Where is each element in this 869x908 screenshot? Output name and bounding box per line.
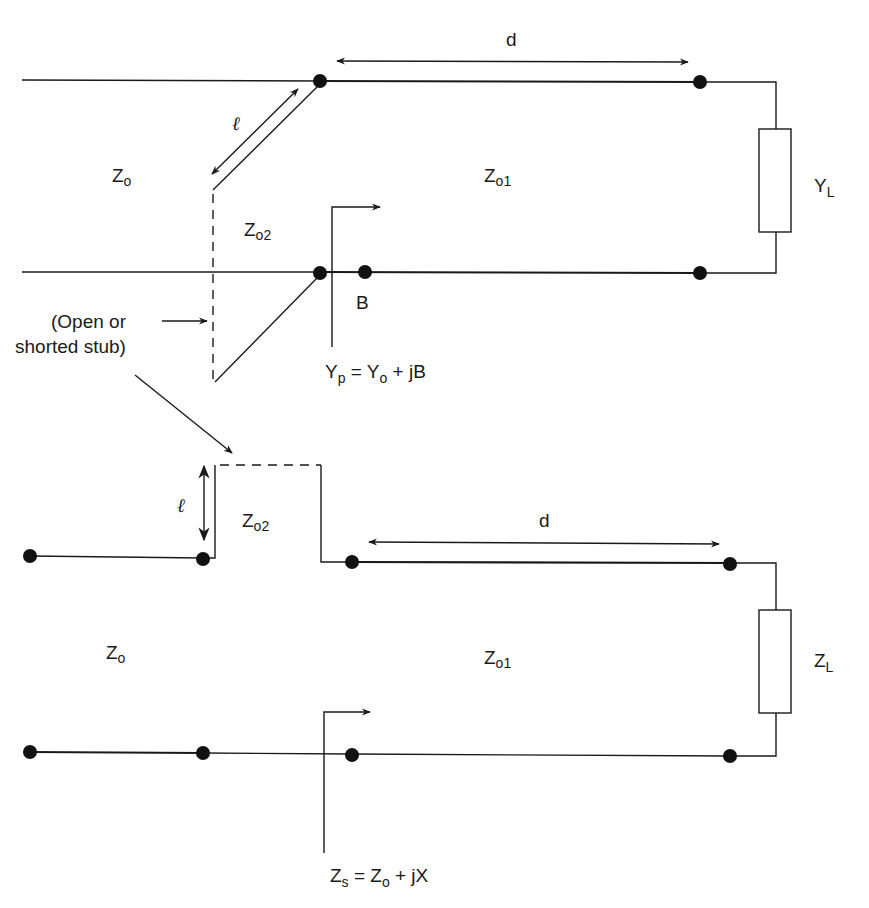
stub-note-line2: shorted stub) bbox=[15, 336, 126, 357]
bottom-label-z0: Zo bbox=[106, 642, 126, 666]
stub-upper-conductor bbox=[213, 86, 318, 190]
node-dot bbox=[345, 748, 359, 762]
load-impedance-zl bbox=[759, 610, 791, 713]
label-b: B bbox=[356, 292, 369, 313]
bottom-upper-conductor-z0 bbox=[30, 556, 203, 558]
bottom-distance-arrow bbox=[369, 542, 719, 544]
bottom-label-d: d bbox=[539, 510, 550, 531]
top-label-z02: Zo2 bbox=[244, 219, 271, 243]
top-label-z01: Zo1 bbox=[484, 165, 511, 189]
stub-matching-diagram: d ℓ Zo Zo2 Zo1 YL B Yp = Yo + jB (Open o… bbox=[0, 0, 869, 908]
shunt-stub-circuit: d ℓ Zo Zo2 Zo1 YL B Yp = Yo + jB bbox=[22, 29, 835, 386]
top-reference-plane-arrow bbox=[332, 207, 380, 347]
top-label-z0: Zo bbox=[112, 165, 132, 189]
bottom-reference-plane-arrow bbox=[324, 712, 370, 853]
stub-lower-conductor bbox=[215, 277, 318, 382]
top-lower-conductor-z01 bbox=[320, 272, 700, 273]
series-stub-circuit: d ℓ Zo2 Zo Zo1 ZL Zs = Zo + jX bbox=[23, 465, 834, 890]
bottom-load-wire-upper bbox=[730, 563, 776, 610]
top-upper-conductor-z0 bbox=[22, 80, 320, 81]
node-dot bbox=[693, 266, 707, 280]
equation-zs: Zs = Zo + jX bbox=[330, 865, 429, 890]
node-dot bbox=[723, 749, 737, 763]
node-dot bbox=[313, 74, 327, 88]
top-distance-arrow bbox=[337, 61, 688, 62]
node-dot bbox=[23, 745, 37, 759]
bottom-load-wire-lower bbox=[730, 713, 776, 756]
node-dot bbox=[723, 557, 737, 571]
bottom-upper-conductor-z01 bbox=[352, 562, 730, 563]
node-dot bbox=[345, 555, 359, 569]
label-zl: ZL bbox=[814, 650, 834, 675]
bottom-lower-conductor-z01 bbox=[352, 754, 730, 756]
stub-note-line1: (Open or bbox=[51, 311, 127, 332]
node-dot bbox=[313, 266, 327, 280]
stub-annotation: (Open or shorted stub) bbox=[15, 311, 232, 453]
top-upper-conductor-z01 bbox=[320, 81, 700, 82]
top-label-ell: ℓ bbox=[232, 112, 240, 134]
node-dot bbox=[693, 75, 707, 89]
load-admittance-yl bbox=[759, 129, 791, 232]
node-dot bbox=[196, 746, 210, 760]
bottom-lower-conductor-mid bbox=[203, 753, 352, 754]
node-dot bbox=[358, 265, 372, 279]
series-stub-left-wall bbox=[203, 465, 215, 558]
node-dot bbox=[196, 552, 210, 566]
label-yl: YL bbox=[814, 175, 835, 200]
stub-length-arrow bbox=[212, 89, 298, 174]
top-load-wire-lower bbox=[700, 232, 776, 273]
node-dot bbox=[23, 549, 37, 563]
bottom-label-z02: Zo2 bbox=[242, 510, 269, 534]
bottom-lower-conductor-z0 bbox=[30, 752, 203, 753]
bottom-label-ell: ℓ bbox=[177, 494, 185, 516]
top-load-wire-upper bbox=[700, 82, 776, 129]
top-label-d: d bbox=[506, 29, 517, 50]
stub-note-arrow-bottom bbox=[135, 375, 232, 453]
equation-yp: Yp = Yo + jB bbox=[325, 361, 426, 386]
series-stub-right-wall bbox=[321, 465, 352, 562]
bottom-label-z01: Zo1 bbox=[484, 647, 511, 671]
